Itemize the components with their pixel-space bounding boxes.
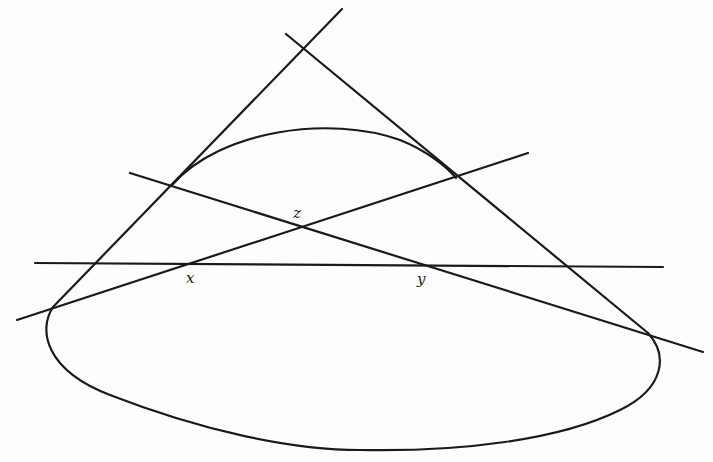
lower-conic-curve [46, 307, 659, 450]
point-label-y: y [417, 270, 425, 288]
diagram-svg [0, 0, 713, 462]
upper-conic-arc [172, 128, 456, 185]
point-label-z: z [293, 204, 301, 222]
line-xz [17, 153, 528, 320]
line-zy [130, 173, 703, 352]
point-label-x: x [186, 269, 194, 287]
line-xy [35, 263, 663, 267]
diagram-canvas: z x y [0, 0, 713, 462]
right-tangent-line [286, 34, 648, 333]
